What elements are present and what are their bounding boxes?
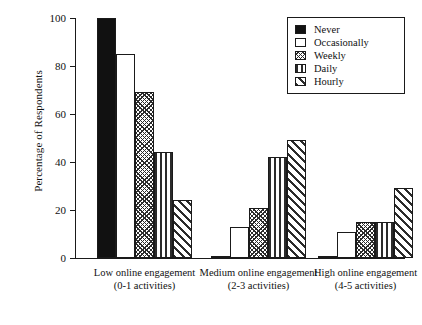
- y-tick-label: 0: [26, 253, 75, 264]
- legend-item-never: Never: [295, 23, 398, 36]
- bar-occasionally: [230, 227, 249, 258]
- x-category-label-line1: Low online engagement: [94, 267, 195, 278]
- x-axis-line: [75, 258, 405, 259]
- legend-swatch-daily: [295, 64, 306, 73]
- bar-hourly: [287, 140, 306, 258]
- bar-daily: [154, 152, 173, 258]
- bar-weekly: [135, 92, 154, 258]
- bar-never: [211, 256, 230, 258]
- bar-group: [97, 18, 192, 258]
- x-category-label-line2: (4-5 activities): [291, 279, 422, 292]
- bar-occasionally: [116, 54, 135, 258]
- x-category-label-line1: High online engagement: [314, 267, 417, 278]
- y-tick-mark: [70, 114, 75, 115]
- legend-swatch-weekly: [295, 51, 306, 60]
- y-tick-mark: [70, 210, 75, 211]
- y-tick-label: 80: [26, 61, 75, 72]
- legend-item-occasionally: Occasionally: [295, 36, 398, 49]
- bar-never: [97, 18, 116, 258]
- legend-swatch-occasionally: [295, 38, 306, 47]
- y-tick-mark: [70, 258, 75, 259]
- bar-daily: [375, 222, 394, 258]
- legend-item-weekly: Weekly: [295, 49, 398, 62]
- y-tick-mark: [70, 66, 75, 67]
- bar-hourly: [394, 188, 413, 258]
- y-tick-mark: [70, 162, 75, 163]
- bar-weekly: [249, 208, 268, 258]
- bar-occasionally: [337, 232, 356, 258]
- y-tick-mark: [70, 18, 75, 19]
- y-tick-label: 40: [26, 157, 75, 168]
- legend-item-hourly: Hourly: [295, 75, 398, 88]
- legend-swatch-never: [295, 25, 306, 34]
- x-category-label: High online engagement(4-5 activities): [291, 266, 422, 292]
- bar-weekly: [356, 222, 375, 258]
- legend-label: Occasionally: [314, 37, 369, 48]
- y-tick-label: 60: [26, 109, 75, 120]
- chart-legend: NeverOccasionallyWeeklyDailyHourly: [287, 17, 405, 94]
- bar-hourly: [173, 200, 192, 258]
- legend-label: Never: [314, 24, 340, 35]
- legend-swatch-hourly: [295, 77, 306, 86]
- bar-daily: [268, 157, 287, 258]
- y-axis-line: [75, 18, 76, 258]
- y-tick-label: 20: [26, 205, 75, 216]
- legend-label: Daily: [314, 63, 337, 74]
- legend-label: Weekly: [314, 50, 346, 61]
- bar-never: [318, 256, 337, 258]
- legend-label: Hourly: [314, 76, 344, 87]
- legend-item-daily: Daily: [295, 62, 398, 75]
- y-tick-label: 100: [26, 13, 75, 24]
